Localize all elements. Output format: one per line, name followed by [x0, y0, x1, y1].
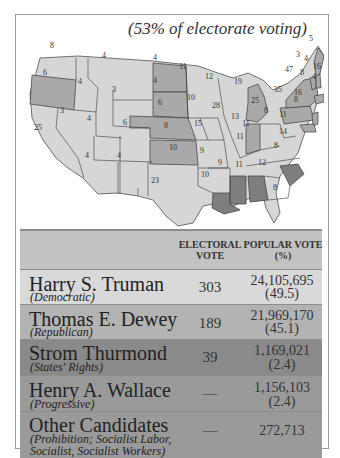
state-label-nc: 14	[279, 127, 287, 136]
candidate-party: (Progressive)	[30, 398, 94, 410]
state-label-ct: 8	[300, 68, 304, 77]
state-label-ar: 9	[200, 146, 204, 155]
state-label-ma: 16	[313, 62, 321, 71]
state-label-az: 4	[85, 151, 89, 160]
state-alabama	[248, 176, 268, 202]
state-label-nd: 4	[153, 53, 157, 62]
state-label-nm: 4	[117, 151, 121, 160]
state-label-la: 10	[201, 170, 209, 179]
header-popular-line1: POPULAR VOTE	[242, 239, 324, 250]
candidate-party: (Republican)	[30, 326, 93, 338]
state-mississippi	[230, 176, 246, 204]
popular-percent: (2.4)	[242, 395, 322, 409]
state-south-carolina	[280, 164, 304, 186]
state-label-ut: 4	[87, 114, 91, 123]
state-label-de/md: 8	[294, 95, 298, 104]
state-label-me: 5	[309, 34, 313, 43]
state-label-mt: 4	[102, 51, 106, 60]
state-label-pa: 35	[274, 85, 282, 94]
electoral-vote: —	[180, 422, 240, 439]
state-connecticut	[314, 94, 324, 104]
table-row-wallace: Henry A. Wallace (Progressive) — 1,156,1…	[20, 375, 322, 411]
table-row-other: Other Candidates (Prohibition; Socialist…	[20, 411, 322, 458]
state-label-ky: 11	[242, 119, 250, 128]
state-label-ia: 10	[187, 93, 195, 102]
state-label-ok: 10	[169, 143, 177, 152]
header-electoral-line2: VOTE	[172, 250, 248, 261]
header-popular-vote: POPULAR VOTE (%)	[242, 239, 324, 261]
popular-vote: 1,169,021	[242, 344, 322, 358]
popular-percent: (49.5)	[242, 287, 322, 301]
state-label-ks: 8	[164, 121, 168, 130]
electoral-vote: 189	[180, 315, 240, 332]
table-row-dewey: Thomas E. Dewey (Republican) 189 21,969,…	[20, 304, 322, 339]
state-label-vt: 3	[296, 50, 300, 59]
state-label-wi: 12	[205, 72, 213, 81]
popular-vote: 272,713	[242, 424, 322, 438]
candidate-party: (States' Rights)	[30, 361, 103, 373]
candidate-party-line2: Socialist, Socialist Workers)	[30, 445, 165, 457]
state-label-wv: 8	[264, 106, 268, 115]
popular-percent: (45.1)	[242, 322, 322, 336]
state-label-ga: 12	[258, 158, 266, 167]
state-label-ri: 4	[312, 72, 316, 81]
state-label-co: 6	[123, 118, 127, 127]
us-electoral-map: 8625434346444468102311101591012281913251…	[18, 28, 324, 228]
state-label-ca: 25	[34, 123, 42, 132]
state-label-tx: 23	[151, 176, 159, 185]
state-new-hampshire	[316, 74, 321, 88]
state-label-nv: 3	[60, 106, 64, 115]
state-oregon	[30, 75, 76, 110]
state-label-id: 4	[78, 77, 82, 86]
electoral-vote: 303	[180, 279, 240, 296]
state-label-mi: 19	[234, 77, 242, 86]
popular-percent: (2.4)	[242, 358, 322, 372]
state-label-ms: 9	[218, 158, 222, 167]
state-label-or: 6	[43, 68, 47, 77]
state-label-mn: 11	[179, 62, 187, 71]
electoral-vote: 39	[180, 349, 240, 366]
state-label-ny: 47	[285, 65, 293, 74]
state-label-fl: 8	[273, 183, 277, 192]
state-label-sc: 8	[274, 141, 278, 150]
state-label-va: 11	[279, 110, 287, 119]
state-label-mo: 15	[194, 119, 202, 128]
table-row-thurmond: Strom Thurmond (States' Rights) 39 1,169…	[20, 339, 322, 375]
candidate-party: (Democratic)	[30, 291, 95, 303]
state-label-tn: 11	[236, 132, 244, 141]
state-label-nh: 4	[304, 54, 308, 63]
popular-vote: 1,156,103	[242, 381, 322, 395]
header-electoral-vote: ELECTORAL VOTE	[172, 239, 248, 261]
header-popular-line2: (%)	[242, 250, 324, 261]
state-label-sd: 4	[153, 76, 157, 85]
map-svg: 8625434346444468102311101591012281913251…	[18, 28, 324, 228]
header-electoral-line1: ELECTORAL	[172, 239, 248, 250]
table-row-truman: Harry S. Truman (Democratic) 303 24,105,…	[20, 269, 322, 304]
state-label-wy: 3	[112, 85, 116, 94]
state-label-al: 11	[235, 160, 243, 169]
state-label-oh: 25	[251, 96, 259, 105]
electoral-vote: —	[180, 385, 240, 402]
state-indiana	[246, 124, 260, 154]
state-label-il: 28	[212, 101, 220, 110]
state-label-ne: 6	[158, 98, 162, 107]
table-header: ELECTORAL VOTE POPULAR VOTE (%)	[20, 229, 322, 269]
state-label-in: 13	[231, 112, 239, 121]
results-table: ELECTORAL VOTE POPULAR VOTE (%) Harry S.…	[20, 229, 322, 458]
state-label-wa: 8	[50, 41, 54, 50]
